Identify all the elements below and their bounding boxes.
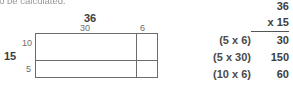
multiplicand-value: 36 <box>253 0 289 14</box>
partial-product-value: 30 <box>253 32 289 48</box>
partial-product-expression: (5 x 30) <box>213 49 251 65</box>
multiplier-row: x 15 <box>176 14 293 30</box>
label-top-segment-30: 30 <box>80 24 90 33</box>
partial-product-expression: (10 x 6) <box>213 66 251 82</box>
multiplier-operator: x 15 <box>253 14 289 30</box>
partial-product-row: (10 x 6) 60 <box>176 66 293 82</box>
caption-line: eed to be calculated. <box>0 0 150 7</box>
partial-product-value: 150 <box>253 49 289 65</box>
label-left-total: 15 <box>4 51 16 62</box>
label-top-segment-6: 6 <box>140 24 145 33</box>
partial-product-row: (5 x 30) 150 <box>176 49 293 65</box>
multiplicand-row: 36 <box>176 0 293 14</box>
vertical-multiplication: 36 x 15 (5 x 6) 30 (5 x 30) 150 (10 x 6)… <box>176 0 293 87</box>
area-cell-6x5[interactable] <box>137 61 158 78</box>
worksheet-figure: eed to be calculated. 36 30 6 15 10 5 36… <box>0 0 293 87</box>
partial-product-expression: (5 x 6) <box>219 32 251 48</box>
partial-product-row: (5 x 6) 30 <box>176 32 293 48</box>
area-cell-30x5[interactable] <box>36 61 136 78</box>
area-cell-6x10[interactable] <box>137 34 158 60</box>
label-left-segment-5: 5 <box>26 65 31 74</box>
partial-product-value: 300 <box>253 83 289 87</box>
area-cell-30x10[interactable] <box>36 34 136 60</box>
area-model: 36 30 6 15 10 5 <box>0 8 170 87</box>
partial-product-row: (10 x 30) 300 <box>176 83 293 87</box>
label-left-segment-10: 10 <box>22 39 32 48</box>
partial-product-value: 60 <box>253 66 289 82</box>
partial-product-expression: (10 x 30) <box>207 83 251 87</box>
caption-text: eed to be calculated. <box>0 0 66 6</box>
